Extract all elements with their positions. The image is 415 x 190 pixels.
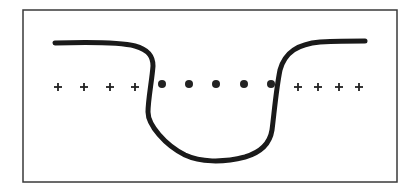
dot xyxy=(240,80,248,88)
dot xyxy=(158,80,166,88)
well-diagram xyxy=(0,0,415,190)
dot xyxy=(267,80,275,88)
dot xyxy=(212,80,220,88)
dot xyxy=(185,80,193,88)
